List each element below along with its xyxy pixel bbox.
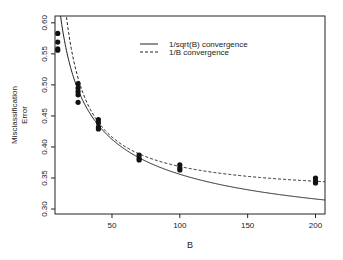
x-tick-label: 50 [108, 221, 117, 230]
sqrt-convergence-curve [55, 0, 329, 200]
y-tick-label: 0.45 [40, 108, 49, 124]
x-axis: 50100150200 [108, 214, 323, 230]
data-point [55, 39, 60, 44]
y-axis-label-line1: Misclassification [10, 86, 19, 144]
data-point [55, 31, 60, 36]
x-tick-label: 100 [173, 221, 187, 230]
y-tick-label: 0.55 [40, 46, 49, 62]
y-tick-label: 0.35 [40, 170, 49, 186]
y-tick-label: 0.30 [40, 201, 49, 217]
data-point [177, 167, 182, 172]
y-axis-label-line2: Error [20, 106, 29, 124]
data-point [75, 100, 80, 105]
y-tick-label: 0.60 [40, 14, 49, 30]
data-point [313, 180, 318, 185]
x-axis-label: B [187, 240, 193, 250]
legend: 1/sqrt(B) convergence 1/B convergence [140, 40, 248, 57]
x-tick-label: 150 [241, 221, 255, 230]
data-point [96, 126, 101, 131]
x-tick-label: 200 [309, 221, 323, 230]
convergence-chart: 50100150200 0.300.350.400.450.500.550.60… [0, 0, 343, 260]
data-point [137, 157, 142, 162]
y-tick-label: 0.40 [40, 139, 49, 155]
y-tick-label: 0.50 [40, 77, 49, 93]
data-point [55, 48, 60, 53]
data-point [75, 92, 80, 97]
y-axis-label: Misclassification Error [10, 86, 29, 144]
legend-item-label: 1/B convergence [169, 48, 230, 57]
inverse-convergence-curve [55, 0, 329, 182]
fit-curves [55, 0, 329, 200]
y-axis: 0.300.350.400.450.500.550.60 [40, 14, 55, 216]
